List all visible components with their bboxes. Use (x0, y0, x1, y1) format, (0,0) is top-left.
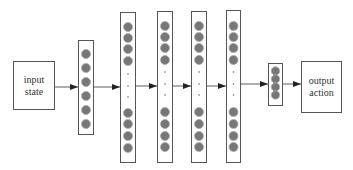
ellipsis-dot (127, 96, 129, 98)
neuron-node (161, 44, 170, 53)
neuron-node (195, 33, 204, 42)
ellipsis-dot (233, 71, 235, 73)
ellipsis-dot (164, 71, 166, 73)
neuron-node (82, 64, 91, 73)
neuron-node (161, 143, 170, 152)
neuron-node (195, 108, 204, 117)
neuron-node (195, 143, 204, 152)
neuron-node (229, 120, 238, 129)
neuron-node (161, 56, 170, 65)
ellipsis-dot (164, 94, 166, 96)
neuron-node (229, 33, 238, 42)
neuron-node (82, 50, 91, 59)
neuron-node (124, 23, 133, 32)
layer-1 (79, 41, 94, 135)
neuron-node (161, 108, 170, 117)
neuron-node (229, 44, 238, 53)
output-box-line1: output (309, 75, 335, 87)
neuron-node (124, 57, 133, 66)
ellipsis-dot (233, 94, 235, 96)
layer-2 (121, 13, 136, 163)
neuron-node (229, 132, 238, 141)
neuron-node (161, 33, 170, 42)
neuron-node (271, 83, 279, 91)
neuron-node (271, 67, 279, 75)
neuron-node (82, 120, 91, 129)
neuron-node (124, 132, 133, 141)
ellipsis-dot (198, 94, 200, 96)
neuron-node (195, 56, 204, 65)
neuron-node (195, 22, 204, 31)
neuron-node (161, 132, 170, 141)
neuron-node (271, 91, 279, 99)
neuron-node (124, 109, 133, 118)
neuron-node (82, 92, 91, 101)
neuron-node (195, 132, 204, 141)
neuron-node (271, 75, 279, 83)
ellipsis-dot (127, 85, 129, 87)
ellipsis-dot (233, 83, 235, 85)
ellipsis-dot (164, 83, 166, 85)
neuron-node (124, 34, 133, 43)
input-state-box: input state (13, 61, 55, 110)
layer-4 (192, 12, 207, 163)
input-box-line2: state (25, 86, 43, 98)
neuron-node (161, 120, 170, 129)
ellipsis-dot (198, 83, 200, 85)
output-action-box: output action (301, 61, 342, 113)
neuron-node (195, 120, 204, 129)
ellipsis-dot (198, 71, 200, 73)
neuron-node (124, 120, 133, 129)
neuron-node (229, 143, 238, 152)
neuron-node (229, 56, 238, 65)
neuron-node (82, 106, 91, 115)
neuron-node (229, 22, 238, 31)
layer-out (269, 64, 283, 106)
neuron-node (82, 78, 91, 87)
layers-group (79, 11, 283, 163)
ellipsis-dot (127, 73, 129, 75)
layer-3 (158, 12, 173, 163)
output-box-line2: action (309, 87, 333, 99)
neuron-node (195, 44, 204, 53)
input-box-line1: input (24, 74, 45, 86)
neuron-node (161, 22, 170, 31)
neuron-node (229, 108, 238, 117)
layer-5 (227, 11, 241, 163)
neuron-node (124, 45, 133, 54)
neuron-node (124, 144, 133, 153)
